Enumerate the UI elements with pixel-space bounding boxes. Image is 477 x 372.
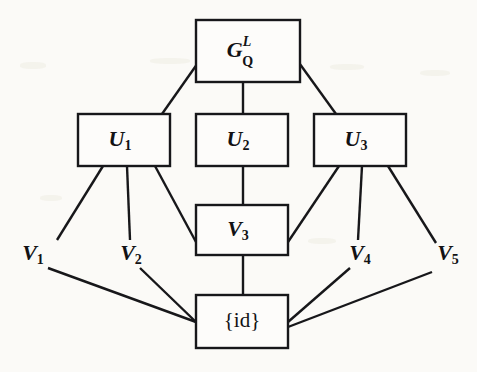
node-label-g-base: G: [227, 37, 243, 62]
free-label-v2-subscript: 2: [135, 252, 142, 267]
edge-u1-to-v1: [57, 166, 103, 240]
free-label-v5: V5: [437, 240, 459, 267]
node-identity-group[interactable]: {id}: [196, 295, 288, 348]
lattice-svg-canvas: GLQ U1 U2 U3 V3: [0, 0, 477, 372]
node-label-g-subscript: Q: [242, 54, 253, 69]
edge-u3-to-v5: [388, 166, 436, 243]
node-u3-group[interactable]: U3: [314, 114, 406, 166]
free-label-v5-subscript: 5: [452, 252, 459, 267]
node-label-u3-subscript: 3: [360, 138, 367, 153]
node-v3-group[interactable]: V3: [196, 205, 288, 255]
node-u2-group[interactable]: U2: [196, 114, 288, 166]
edge-g-to-u1: [162, 60, 200, 114]
free-label-v2: V2: [120, 240, 142, 267]
edge-u1-to-v2: [127, 166, 130, 240]
node-label-u1-base: U: [109, 126, 126, 151]
free-label-v4: V4: [349, 240, 371, 267]
free-label-v1: V1: [22, 240, 44, 267]
edge-u1-to-v3: [155, 166, 196, 242]
node-label-v3-subscript: 3: [242, 228, 249, 243]
node-box-g-q-l[interactable]: [196, 20, 300, 82]
edge-v1-to-id: [48, 268, 196, 322]
edge-g-to-u3: [297, 60, 336, 114]
edge-group: [48, 60, 436, 327]
edge-v5-to-id: [288, 272, 432, 327]
free-label-v4-subscript: 4: [364, 252, 371, 267]
edge-u3-to-v4: [358, 166, 362, 240]
node-label-identity: {id}: [224, 308, 261, 332]
node-label-g-superscript: L: [242, 34, 252, 49]
node-u1-group[interactable]: U1: [78, 114, 170, 166]
node-label-u3-base: U: [345, 126, 362, 151]
edge-v2-to-id: [140, 268, 196, 322]
node-label-u2-base: U: [227, 126, 244, 151]
node-top-group[interactable]: GLQ: [196, 20, 300, 82]
free-label-v1-subscript: 1: [37, 252, 44, 267]
node-label-u1-subscript: 1: [124, 138, 131, 153]
node-label-u2-subscript: 2: [242, 138, 249, 153]
edge-u3-to-v3: [288, 166, 339, 242]
lattice-diagram: GLQ U1 U2 U3 V3: [0, 0, 477, 372]
